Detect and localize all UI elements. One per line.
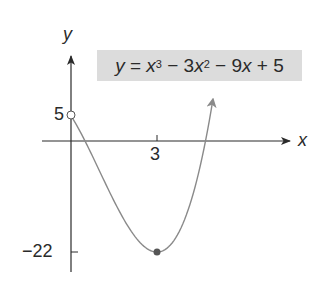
y-tick-label-minus22: −22 <box>22 241 53 262</box>
eq-x3: x <box>242 55 252 77</box>
eq-exp3: 3 <box>156 58 162 70</box>
minimum-point <box>154 249 161 256</box>
eq-lhs: y <box>115 55 125 77</box>
eq-op3: + 5 <box>252 55 284 77</box>
eq-x2: x <box>194 55 204 77</box>
equation-box: y = x3 − 3x2 − 9x + 5 <box>97 50 302 81</box>
eq-op2: − 9 <box>210 55 242 77</box>
open-endpoint <box>67 111 75 119</box>
eq-exp2: 2 <box>204 58 210 70</box>
eq-op1: − 3 <box>162 55 194 77</box>
eq-equals: = <box>125 55 147 77</box>
function-curve <box>71 99 213 252</box>
y-tick-label-5: 5 <box>54 104 64 125</box>
eq-x1: x <box>146 55 156 77</box>
x-tick-label-3: 3 <box>150 144 160 165</box>
x-axis-label: x <box>298 130 307 151</box>
y-axis-label: y <box>63 24 72 45</box>
